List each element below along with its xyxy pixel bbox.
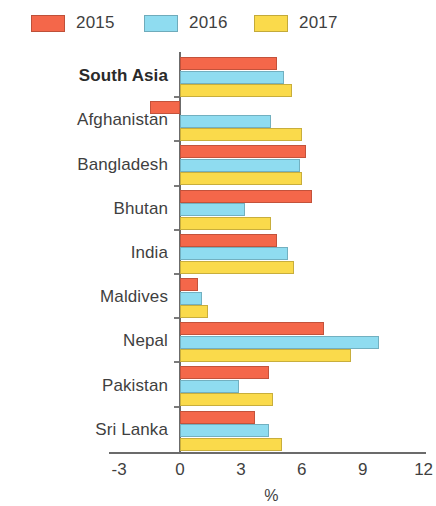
bar-2015-bhutan bbox=[180, 190, 312, 203]
bar-2015-india bbox=[180, 234, 277, 247]
bar-2017-pakistan bbox=[180, 393, 273, 406]
bar-2016-bangladesh bbox=[180, 159, 300, 172]
bar-2015-sri-lanka bbox=[180, 411, 255, 424]
bar-2016-maldives bbox=[180, 292, 202, 305]
legend-swatch-2016 bbox=[144, 15, 178, 32]
x-tick-label: 6 bbox=[282, 460, 322, 480]
bar-2016-india bbox=[180, 247, 288, 260]
axis-tick bbox=[174, 273, 179, 275]
legend-item-2017: 2017 bbox=[254, 12, 338, 34]
legend-label-2016: 2016 bbox=[189, 13, 228, 33]
bar-2016-afghanistan bbox=[180, 115, 271, 128]
legend-item-2015: 2015 bbox=[31, 12, 115, 34]
axis-tick bbox=[174, 229, 179, 231]
x-tick-label: 0 bbox=[160, 460, 200, 480]
bar-2017-south-asia bbox=[180, 84, 292, 97]
legend-label-2017: 2017 bbox=[299, 13, 338, 33]
bar-2017-india bbox=[180, 261, 294, 274]
bar-2015-nepal bbox=[180, 322, 324, 335]
bar-2015-afghanistan bbox=[150, 101, 180, 114]
x-tick-label: -3 bbox=[99, 460, 139, 480]
bar-2015-south-asia bbox=[180, 57, 277, 70]
bar-2016-sri-lanka bbox=[180, 424, 269, 437]
axis-tick bbox=[174, 96, 179, 98]
bar-2017-sri-lanka bbox=[180, 438, 282, 451]
bar-2016-south-asia bbox=[180, 71, 284, 84]
bar-2017-nepal bbox=[180, 349, 351, 362]
bars-container bbox=[0, 52, 436, 452]
bar-2015-maldives bbox=[180, 278, 198, 291]
x-axis-line bbox=[109, 452, 426, 454]
bar-2017-maldives bbox=[180, 305, 208, 318]
x-tick-label: 12 bbox=[404, 460, 436, 480]
x-tick-label: 3 bbox=[221, 460, 261, 480]
axis-tick bbox=[174, 140, 179, 142]
axis-tick bbox=[174, 406, 179, 408]
bar-2016-nepal bbox=[180, 336, 379, 349]
chart-plot-area: South AsiaAfghanistanBangladeshBhutanInd… bbox=[0, 52, 436, 452]
legend-swatch-2017 bbox=[254, 15, 288, 32]
axis-tick bbox=[174, 185, 179, 187]
legend-label-2015: 2015 bbox=[76, 13, 115, 33]
axis-tick bbox=[174, 317, 179, 319]
bar-2017-afghanistan bbox=[180, 128, 302, 141]
bar-2017-bangladesh bbox=[180, 172, 302, 185]
axis-tick bbox=[174, 361, 179, 363]
x-axis-title: % bbox=[241, 487, 301, 505]
bar-2015-bangladesh bbox=[180, 145, 306, 158]
bar-2016-bhutan bbox=[180, 203, 245, 216]
legend-item-2016: 2016 bbox=[144, 12, 228, 34]
chart-legend: 2015 2016 2017 bbox=[0, 12, 436, 40]
x-tick-label: 9 bbox=[343, 460, 383, 480]
legend-swatch-2015 bbox=[31, 15, 65, 32]
bar-2017-bhutan bbox=[180, 217, 271, 230]
bar-2015-pakistan bbox=[180, 366, 269, 379]
bar-2016-pakistan bbox=[180, 380, 239, 393]
